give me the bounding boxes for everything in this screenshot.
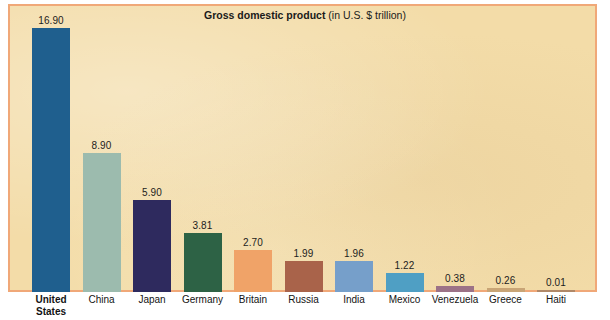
bar-group: 3.81: [178, 6, 228, 292]
chart-title-main: Gross domestic product: [204, 9, 325, 21]
category-label: Mexico: [376, 294, 434, 306]
bar-group: 8.90: [77, 6, 127, 292]
bar-value-label: 5.90: [127, 187, 177, 198]
category-label: Haiti: [527, 294, 585, 306]
category-label: UnitedStates: [22, 294, 80, 317]
gdp-bar-chart: Gross domestic product (in U.S. $ trilli…: [0, 0, 610, 320]
bar-group: 2.70: [228, 6, 278, 292]
bar: [83, 153, 121, 292]
bar: [133, 200, 171, 292]
category-label: Japan: [123, 294, 181, 306]
bar-value-label: 8.90: [77, 140, 127, 151]
bar: [537, 290, 575, 292]
bar-value-label: 1.22: [380, 260, 430, 271]
category-axis: UnitedStatesChinaJapanGermanyBritainRuss…: [8, 294, 597, 320]
bar: [234, 250, 272, 292]
bar-group: 1.96: [329, 6, 379, 292]
category-label: Venezuela: [426, 294, 484, 306]
bar: [487, 288, 525, 292]
bar: [386, 273, 424, 292]
bar-value-label: 1.99: [279, 248, 329, 259]
category-label: Britain: [224, 294, 282, 306]
bar-group: 5.90: [127, 6, 177, 292]
bar-group: 1.99: [279, 6, 329, 292]
category-label: India: [325, 294, 383, 306]
bar-group: 0.26: [481, 6, 531, 292]
bar: [32, 28, 70, 292]
bar-value-label: 0.26: [481, 275, 531, 286]
chart-title-sub: (in U.S. $ trillion): [325, 9, 406, 21]
category-label: Greece: [477, 294, 535, 306]
bar-value-label: 3.81: [178, 220, 228, 231]
bar-value-label: 0.01: [531, 277, 581, 288]
bar: [335, 261, 373, 292]
bar: [436, 286, 474, 292]
bar-group: 16.90: [26, 6, 76, 292]
bar: [184, 233, 222, 293]
bar-group: 1.22: [380, 6, 430, 292]
plot-area: 16.908.905.903.812.701.991.961.220.380.2…: [8, 4, 597, 292]
bar-value-label: 2.70: [228, 237, 278, 248]
bar-value-label: 1.96: [329, 248, 379, 259]
bar: [285, 261, 323, 292]
bar-value-label: 0.38: [430, 273, 480, 284]
chart-title: Gross domestic product (in U.S. $ trilli…: [0, 9, 610, 21]
bar-group: 0.38: [430, 6, 480, 292]
category-label: China: [73, 294, 131, 306]
category-label: Germany: [174, 294, 232, 306]
category-label: Russia: [275, 294, 333, 306]
bar-group: 0.01: [531, 6, 581, 292]
